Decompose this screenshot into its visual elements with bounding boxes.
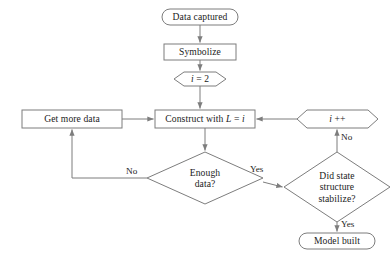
construct-i: i	[242, 113, 245, 124]
enough-data-line1: Enough	[175, 167, 235, 178]
node-label-increment-i: i ++	[297, 114, 378, 124]
node-label-construct: Construct with L = i	[155, 114, 255, 124]
node-label-enough-data: Enough data?	[175, 167, 235, 190]
flowchart-diagram: Data captured Symbolize i = 2 Get more d…	[0, 0, 392, 258]
node-label-symbolize: Symbolize	[164, 47, 236, 57]
edge-label-enough-data-yes: Yes	[250, 164, 263, 174]
state-stabilize-line3: stabilize?	[304, 193, 370, 204]
node-label-get-more-data: Get more data	[22, 114, 122, 124]
edge-label-enough-data-no: No	[126, 166, 137, 176]
init-i-value: = 2	[194, 73, 209, 84]
node-label-data-captured: Data captured	[162, 12, 238, 22]
enough-data-line2: data?	[175, 178, 235, 189]
state-stabilize-line2: structure	[304, 181, 370, 192]
construct-equals: =	[231, 113, 242, 124]
flowchart-canvas	[0, 0, 392, 258]
edge-label-stabilize-no: No	[341, 132, 352, 142]
construct-prefix: Construct with	[165, 113, 226, 124]
increment-i-operator: ++	[332, 113, 346, 124]
node-label-model-built: Model built	[299, 236, 375, 246]
node-label-state-stabilize: Did state structure stabilize?	[304, 170, 370, 204]
edge-enough-data-yes	[263, 182, 283, 187]
state-stabilize-line1: Did state	[304, 170, 370, 181]
edge-label-stabilize-yes: Yes	[341, 219, 354, 229]
node-label-init-i: i = 2	[174, 74, 226, 84]
